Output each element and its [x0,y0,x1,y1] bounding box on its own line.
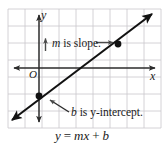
equation-plus-sign: + [89,128,102,143]
graph-canvas [0,0,164,149]
intercept-annotation: b is y-intercept. [71,107,143,119]
graph-line [12,14,152,120]
intercept-annotation-text: is y-intercept. [77,106,143,118]
equation-slope-term: mx [74,128,89,143]
slope-annotation: m is slope. [52,38,101,50]
slope-annotation-text: is slope. [60,37,101,49]
y-axis-label: y [41,9,46,21]
intercept-pointer [50,100,69,112]
y-intercept-point [36,93,43,100]
equation-intercept-term: b [103,128,110,143]
origin-label: O [29,69,37,80]
equation-lhs: y [55,128,61,143]
slope-point [115,41,122,48]
equation-caption: y=mx+b [0,128,164,144]
x-axis-label: x [150,70,155,82]
equation-equals-sign: = [61,128,74,143]
slope-intercept-figure: y x O m is slope. b is y-intercept. y=mx… [0,0,164,149]
